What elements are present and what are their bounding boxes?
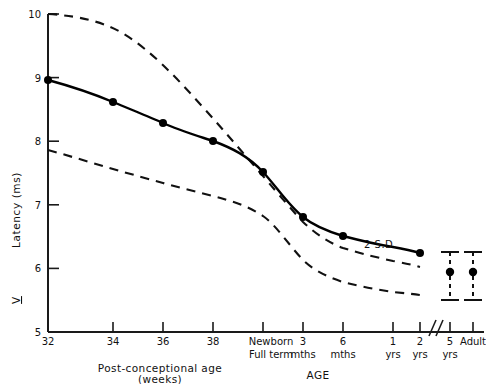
x-tick-label-32wk: 32 bbox=[42, 336, 55, 347]
y-axis-title-group: Latency (ms) bbox=[10, 172, 22, 248]
y-tick-label-7: 7 bbox=[35, 200, 41, 211]
x-group-label-weeks: (weeks) bbox=[138, 373, 182, 384]
y-axis-title-prefix-group: V bbox=[10, 296, 22, 304]
data-point-38wk bbox=[209, 137, 217, 145]
post-conceptional-group: Post-conceptional age (weeks) bbox=[98, 362, 222, 384]
x-tick-label-fullterm: Full term bbox=[249, 349, 293, 360]
x-tick-label-5-units: yrs bbox=[442, 349, 457, 360]
axis-break-slash-2 bbox=[436, 320, 443, 336]
x-tick-label-6: 6 bbox=[340, 336, 346, 347]
data-point-32wk bbox=[44, 76, 52, 84]
x-tick-label-adult: Adult bbox=[460, 336, 486, 347]
annotation-2sd: 2 S.D. bbox=[364, 239, 397, 250]
x-tick-label-2-units: yrs bbox=[412, 349, 427, 360]
axis-break-marker bbox=[429, 320, 443, 336]
data-point-6mths bbox=[339, 232, 347, 240]
data-point-2yrs bbox=[416, 249, 424, 257]
series-mean-line bbox=[48, 80, 420, 253]
x-tick-label-38wk: 38 bbox=[207, 336, 220, 347]
y-tick-label-10: 10 bbox=[28, 9, 41, 20]
x-tick-label-34wk: 34 bbox=[107, 336, 120, 347]
x-tick-label-1: 1 bbox=[390, 336, 396, 347]
error-bar-5yrs bbox=[441, 252, 459, 300]
x-axis-title-age: AGE bbox=[307, 369, 330, 381]
data-point-3mths bbox=[299, 213, 307, 221]
chart-svg: 10 9 8 7 6 5 Latency (ms) V bbox=[0, 0, 486, 384]
data-point-34wk bbox=[109, 98, 117, 106]
error-bar-adult bbox=[464, 252, 482, 300]
error-bar-adult-marker bbox=[469, 268, 477, 276]
data-point-36wk bbox=[159, 119, 167, 127]
x-tick-label-3: 3 bbox=[300, 336, 306, 347]
chart-figure: 10 9 8 7 6 5 Latency (ms) V bbox=[0, 0, 486, 384]
x-tick-label-2: 2 bbox=[417, 336, 423, 347]
y-tick-label-5: 5 bbox=[35, 327, 41, 338]
series-upper-2sd-line bbox=[48, 14, 420, 267]
axis-break-slash-1 bbox=[429, 320, 436, 336]
y-tick-label-9: 9 bbox=[35, 73, 41, 84]
y-tick-label-8: 8 bbox=[35, 136, 41, 147]
x-tick-label-newborn: Newborn bbox=[249, 336, 294, 347]
y-axis-wave-label: V bbox=[10, 296, 22, 304]
y-axis-title: Latency (ms) bbox=[10, 172, 22, 248]
x-ticks-group bbox=[48, 322, 473, 332]
x-tick-label-1-units: yrs bbox=[385, 349, 400, 360]
error-bar-5yrs-marker bbox=[446, 268, 454, 276]
x-tick-label-6-units: mths bbox=[330, 349, 355, 360]
x-tick-label-3-units: mths bbox=[290, 349, 315, 360]
x-tick-label-36wk: 36 bbox=[157, 336, 170, 347]
data-point-newborn bbox=[259, 168, 267, 176]
x-tick-label-5: 5 bbox=[447, 336, 453, 347]
x-tick-labels-group: 32 34 36 38 Newborn Full term 3 mths 6 m… bbox=[42, 336, 486, 360]
y-ticks-group: 10 9 8 7 6 5 bbox=[28, 9, 59, 338]
series-lower-2sd-line bbox=[48, 150, 420, 295]
y-tick-label-6: 6 bbox=[35, 263, 41, 274]
